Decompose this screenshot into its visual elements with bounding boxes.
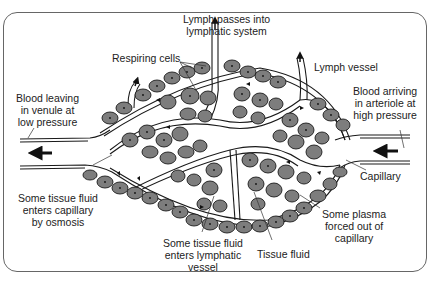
label-line: capillary bbox=[322, 232, 386, 244]
label-tissue-fluid: Tissue fluid bbox=[257, 248, 310, 260]
label-line: Blood arriving bbox=[353, 85, 417, 97]
label-line: Some plasma bbox=[322, 208, 386, 220]
label-line: enters capillary bbox=[18, 204, 98, 216]
label-line: low pressure bbox=[16, 116, 79, 128]
venule bbox=[20, 130, 112, 172]
label-line: high pressure bbox=[353, 109, 417, 121]
label-line: in arteriole at bbox=[353, 97, 417, 109]
label-line: vessel bbox=[163, 261, 243, 273]
label-blood-arriving: Blood arriving in arteriole at high pres… bbox=[353, 85, 417, 121]
label-blood-leaving: Blood leaving in venule at low pressure bbox=[16, 92, 79, 128]
label-line: by osmosis bbox=[18, 216, 98, 228]
label-osmosis: Some tissue fluid enters capillary by os… bbox=[18, 192, 98, 228]
label-respiring-cells: Respiring cells bbox=[112, 52, 180, 64]
label-line: enters lymphatic bbox=[163, 249, 243, 261]
label-line: Some tissue fluid bbox=[163, 237, 243, 249]
label-line: Some tissue fluid bbox=[18, 192, 98, 204]
label-lymph-passes: Lymph passes into lymphatic system bbox=[183, 13, 270, 37]
label-lymph-vessel: Lymph vessel bbox=[314, 61, 378, 73]
label-enters-lymphatic: Some tissue fluid enters lymphatic vesse… bbox=[163, 237, 243, 273]
arteriole bbox=[335, 135, 410, 168]
label-capillary: Capillary bbox=[360, 170, 401, 182]
label-plasma-forced: Some plasma forced out of capillary bbox=[322, 208, 386, 244]
label-line: in venule at bbox=[16, 104, 79, 116]
label-line: Blood leaving bbox=[16, 92, 79, 104]
label-line: Lymph passes into bbox=[183, 13, 270, 25]
label-line: lymphatic system bbox=[183, 25, 270, 37]
label-line: forced out of bbox=[322, 220, 386, 232]
